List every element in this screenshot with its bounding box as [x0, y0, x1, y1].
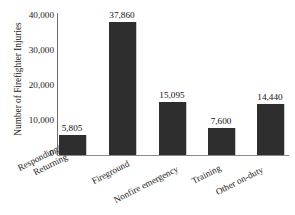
y-tick-40000: 40,000: [2, 10, 54, 20]
bar-value-label: 5,805: [42, 123, 102, 133]
x-category-line1: Fireground: [90, 158, 131, 185]
bar-value-label: 37,860: [92, 10, 152, 20]
x-category-fireground: Fireground: [90, 158, 131, 186]
bar-training: [208, 128, 236, 155]
bar-chart: Number of Firefighter Injuries 40,000 30…: [0, 0, 295, 215]
y-tick-30000: 30,000: [2, 45, 54, 55]
y-tick-20000: 20,000: [2, 80, 54, 90]
bar-value-label: 15,095: [142, 90, 202, 100]
x-category-line1: Training: [190, 163, 222, 186]
x-category-training: Training: [190, 163, 223, 187]
bar-other-on-duty: [257, 104, 285, 155]
plot-area: 5,805 37,860 15,095 7,600 14,440: [57, 14, 289, 155]
bar-nonfire-emergency: [159, 102, 187, 155]
bar-value-label: 7,600: [191, 116, 251, 126]
x-axis-category-labels: Responding/ Returning Fireground Nonfire…: [0, 155, 295, 215]
bar-fireground: [109, 22, 137, 155]
bar-value-label: 14,440: [240, 92, 295, 102]
